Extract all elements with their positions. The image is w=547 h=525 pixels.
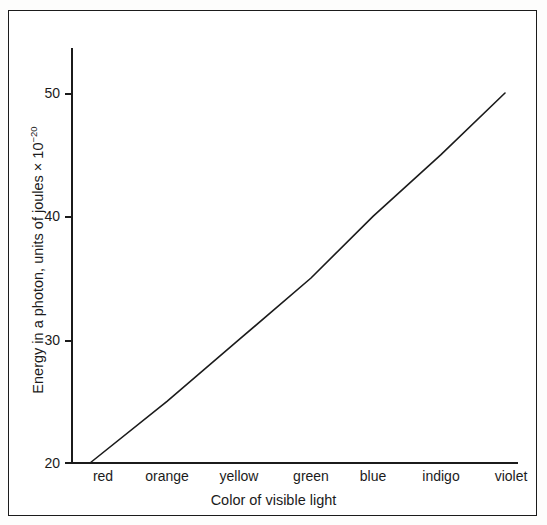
x-tick-label-yellow: yellow <box>220 468 259 484</box>
x-tick-label-green: green <box>293 468 329 484</box>
x-axis-line <box>71 462 518 464</box>
y-tick-mark-30 <box>65 340 72 342</box>
figure-border <box>8 10 537 516</box>
x-tick-label-violet: violet <box>495 468 528 484</box>
x-tick-label-orange: orange <box>145 468 189 484</box>
y-axis-title-exponent: −20 <box>28 126 39 142</box>
x-tick-label-red: red <box>93 468 113 484</box>
y-axis-title: Energy in a photon, units of joules × 10… <box>30 50 46 470</box>
y-axis-title-main: Energy in a photon, units of joules × 10 <box>30 143 46 394</box>
y-tick-mark-40 <box>65 216 72 218</box>
y-axis-line <box>71 48 73 464</box>
figure-canvas: 50 40 30 20 red orange yellow green blue… <box>0 0 547 525</box>
y-tick-mark-20 <box>65 462 72 464</box>
x-tick-label-indigo: indigo <box>422 468 459 484</box>
y-tick-mark-50 <box>65 93 72 95</box>
x-tick-label-blue: blue <box>360 468 386 484</box>
x-axis-title: Color of visible light <box>0 492 547 508</box>
